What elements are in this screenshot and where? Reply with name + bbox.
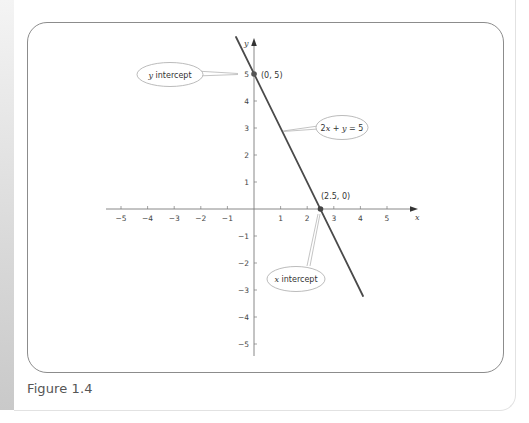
svg-text:3: 3 [331,214,336,223]
svg-text:5: 5 [244,70,249,79]
svg-text:5: 5 [385,214,390,223]
svg-text:1: 1 [278,214,283,223]
y-tick-labels: 1 2 3 4 5 −1 −2 −3 −4 −5 [238,70,249,349]
svg-text:−2: −2 [238,259,249,268]
svg-text:−4: −4 [142,214,153,223]
x-axis-label: x [415,213,420,222]
x-intercept-callout: x intercept [267,214,325,292]
svg-text:2: 2 [244,151,249,160]
svg-text:3: 3 [244,124,249,133]
svg-text:2: 2 [305,214,310,223]
svg-text:4: 4 [358,214,363,223]
y-intercept-callout: y intercept [137,63,238,87]
equation-callout: 2x + y = 5 [283,116,368,140]
svg-text:−5: −5 [238,340,249,349]
x-axis-arrow-icon [410,206,418,212]
svg-text:−2: −2 [195,214,206,223]
y-axis-label: y [243,39,249,48]
y-axis-arrow-icon [251,38,257,46]
x-intercept-coords: (2.5, 0) [321,192,350,201]
svg-text:y intercept: y intercept [147,71,191,80]
x-tick-labels: −5 −4 −3 −2 −1 1 2 3 4 5 [115,214,389,223]
svg-text:4: 4 [244,97,249,106]
svg-text:−3: −3 [238,286,249,295]
line-graph: x y −5 −4 −3 −2 −1 1 2 3 4 5 [0,0,529,423]
svg-text:−4: −4 [238,313,249,322]
svg-text:1: 1 [244,178,249,187]
svg-text:−5: −5 [115,214,126,223]
svg-text:x intercept: x intercept [274,275,317,284]
svg-text:−1: −1 [238,232,249,241]
y-intercept-point [251,71,257,77]
y-intercept-coords: (0, 5) [261,71,283,80]
x-intercept-point [318,206,324,212]
y-axis: y [243,38,257,356]
svg-text:−1: −1 [222,214,233,223]
svg-text:2x + y = 5: 2x + y = 5 [321,124,364,133]
figure-caption: Figure 1.4 [27,381,93,396]
svg-text:−3: −3 [169,214,180,223]
